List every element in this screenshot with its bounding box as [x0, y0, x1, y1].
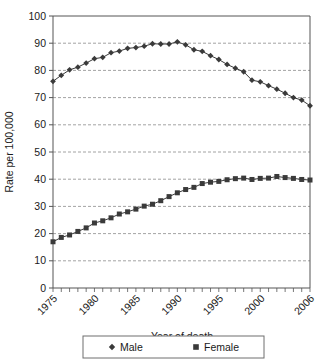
data-point-diamond — [108, 50, 114, 56]
y-tick-labels: 0102030405060708090100 — [28, 10, 46, 294]
data-point-square — [208, 180, 213, 185]
data-point-square — [142, 204, 147, 209]
data-point-diamond — [141, 43, 147, 49]
data-point-square — [75, 229, 80, 234]
data-point-square — [233, 176, 238, 181]
data-point-diamond — [125, 45, 131, 51]
data-point-diamond — [257, 79, 263, 85]
y-tick-label: 100 — [28, 10, 46, 22]
series-line — [53, 42, 310, 106]
data-point-diamond — [133, 45, 139, 51]
x-tick-label: 1980 — [76, 292, 101, 317]
data-point-diamond — [75, 64, 81, 70]
data-point-square — [291, 176, 296, 181]
data-point-diamond — [299, 97, 305, 103]
axes — [53, 16, 310, 288]
y-tick-label: 60 — [34, 118, 46, 130]
data-point-diamond — [208, 53, 214, 59]
line-chart: 0102030405060708090100 19751980198519901… — [0, 0, 326, 363]
data-point-diamond — [307, 103, 313, 109]
data-point-square — [249, 177, 254, 182]
data-point-diamond — [158, 41, 164, 47]
data-point-square — [183, 187, 188, 192]
data-point-diamond — [150, 41, 156, 47]
y-tick-label: 40 — [34, 173, 46, 185]
data-series — [50, 39, 313, 244]
data-point-square — [92, 220, 97, 225]
legend-label: Female — [204, 341, 239, 353]
data-point-square — [150, 202, 155, 207]
data-point-diamond — [291, 95, 297, 101]
x-tick-label: 2000 — [242, 292, 267, 317]
chart-figure: 0102030405060708090100 19751980198519901… — [0, 0, 326, 363]
series-male — [50, 39, 313, 109]
legend-marker-square-icon — [193, 344, 199, 350]
data-point-diamond — [199, 48, 205, 54]
data-point-square — [100, 218, 105, 223]
y-tick-label: 90 — [34, 37, 46, 49]
data-point-square — [216, 179, 221, 184]
data-point-square — [258, 176, 263, 181]
data-point-square — [59, 235, 64, 240]
data-point-square — [158, 198, 163, 203]
data-point-square — [167, 194, 172, 199]
data-point-square — [67, 232, 72, 237]
data-point-square — [117, 212, 122, 217]
data-point-diamond — [274, 86, 280, 92]
data-point-diamond — [83, 60, 89, 66]
data-point-diamond — [166, 41, 172, 47]
data-point-diamond — [216, 57, 222, 63]
data-point-diamond — [224, 62, 230, 68]
data-point-square — [266, 176, 271, 181]
y-tick-label: 80 — [34, 64, 46, 76]
axis-ticks — [49, 16, 310, 292]
legend-label: Male — [120, 341, 143, 353]
data-point-square — [175, 190, 180, 195]
data-point-square — [308, 178, 313, 183]
data-point-diamond — [191, 47, 197, 53]
y-tick-label: 20 — [34, 227, 46, 239]
data-point-square — [133, 207, 138, 212]
gridlines — [53, 43, 310, 261]
data-point-square — [125, 209, 130, 214]
y-tick-label: 10 — [34, 254, 46, 266]
data-point-diamond — [266, 83, 272, 89]
data-point-square — [51, 239, 56, 244]
data-point-square — [225, 177, 230, 182]
y-axis-title: Rate per 100,000 — [3, 111, 15, 192]
data-point-square — [191, 185, 196, 190]
y-tick-label: 0 — [40, 282, 46, 294]
series-line — [53, 176, 310, 241]
y-tick-label: 50 — [34, 146, 46, 158]
y-tick-label: 30 — [34, 200, 46, 212]
x-tick-label: 2006 — [291, 292, 316, 317]
x-tick-label: 1995 — [200, 292, 225, 317]
data-point-square — [109, 215, 114, 220]
data-point-square — [274, 174, 279, 179]
data-point-diamond — [67, 67, 73, 73]
data-point-square — [299, 177, 304, 182]
x-tick-labels: 1975198019851990199520002006 — [34, 292, 316, 317]
data-point-square — [200, 181, 205, 186]
x-tick-label: 1975 — [34, 292, 59, 317]
data-point-diamond — [282, 90, 288, 96]
data-point-diamond — [100, 54, 106, 60]
data-point-diamond — [174, 39, 180, 45]
x-tick-label: 1990 — [159, 292, 184, 317]
chart-legend: MaleFemale — [83, 336, 264, 358]
data-point-square — [241, 176, 246, 181]
x-tick-label: 1985 — [117, 292, 142, 317]
data-point-diamond — [116, 48, 122, 54]
y-tick-label: 70 — [34, 91, 46, 103]
data-point-square — [84, 225, 89, 230]
data-point-square — [283, 175, 288, 180]
data-point-diamond — [92, 56, 98, 62]
